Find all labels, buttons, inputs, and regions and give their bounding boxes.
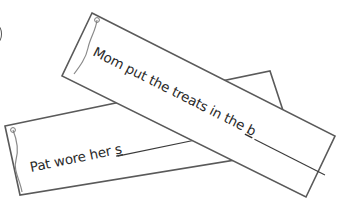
sentence-strips-illustration: Pat wore her s Mom put the treats in the… bbox=[0, 0, 337, 205]
worksheet-canvas: Pat wore her s Mom put the treats in the… bbox=[0, 0, 337, 205]
